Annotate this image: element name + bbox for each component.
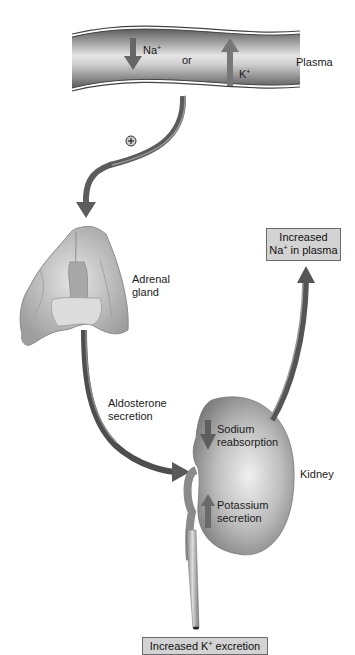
stimulus-plus-icon [126,136,136,146]
na-symbol: Na [143,44,157,56]
plasma-box-ion: Na [269,244,283,256]
increased-k-excretion-box: Increased K+ excretion [142,637,268,655]
aldosterone-secretion-label: Aldosterone secretion [108,397,167,423]
plasma-k-label: K+ [239,68,250,81]
na-charge: + [157,44,161,51]
sodium-label-line1: Sodium [217,423,278,436]
stimulus-arrow [76,96,185,218]
adrenal-label-line1: Adrenal [132,273,170,286]
adrenal-label-line2: gland [132,286,170,299]
plasma-na-label: Na+ [143,44,161,57]
plasma-box-line1: Increased [267,231,340,244]
aldosterone-label-line1: Aldosterone [108,397,167,410]
kidney-label: Kidney [300,468,334,481]
potassium-label-line1: Potassium [217,499,268,512]
potassium-secretion-label: Potassium secretion [217,499,268,525]
increased-na-plasma-box: Increased Na+ in plasma [266,228,341,261]
k-charge: + [246,68,250,75]
kidney-illustration [188,397,295,560]
adrenal-gland-illustration [20,226,128,345]
plasma-box-rest: in plasma [288,244,338,256]
ureter [186,530,199,630]
plasma-or-label: or [182,54,192,67]
sodium-return-arrow [269,266,315,420]
aldosterone-label-line2: secretion [108,410,167,423]
potassium-label-line2: secretion [217,512,268,525]
plasma-box-line2: Na+ in plasma [267,244,340,257]
excretion-prefix: Increased K [150,640,209,652]
excretion-suffix: excretion [213,640,261,652]
plasma-label: Plasma [296,56,333,69]
adrenal-gland-label: Adrenal gland [132,273,170,299]
sodium-reabsorption-label: Sodium reabsorption [217,423,278,449]
sodium-label-line2: reabsorption [217,436,278,449]
